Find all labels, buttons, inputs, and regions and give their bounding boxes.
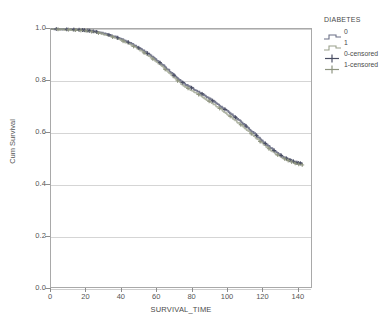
x-tick-mark — [298, 288, 299, 292]
y-tick-label: 0.2 — [10, 231, 46, 240]
x-tick-label: 140 — [283, 292, 313, 301]
plus-marker-icon — [324, 60, 341, 69]
survival-curve-1 — [51, 29, 302, 165]
x-tick-label: 80 — [177, 292, 207, 301]
legend-item-label: 1-censored — [344, 61, 378, 68]
legend-item-label: 0 — [344, 28, 348, 35]
x-tick-mark — [192, 288, 193, 292]
legend-item-0: 0 — [324, 26, 390, 36]
plus-marker-icon — [324, 49, 341, 58]
legend-title: DIABETES — [324, 16, 390, 23]
x-axis-title: SURVIVAL_TIME — [50, 305, 312, 314]
x-tick-mark — [227, 288, 228, 292]
legend: DIABETES 010-censored1-censored — [322, 14, 390, 70]
y-tick-label: 0.0 — [10, 283, 46, 292]
legend-item-0-censored: 0-censored — [324, 48, 390, 58]
y-tick-label: 0.8 — [10, 75, 46, 84]
survival-curves — [51, 29, 311, 287]
legend-item-1: 1 — [324, 37, 390, 47]
x-tick-mark — [50, 288, 51, 292]
x-tick-label: 60 — [141, 292, 171, 301]
legend-item-label: 1 — [344, 39, 348, 46]
x-tick-label: 100 — [212, 292, 242, 301]
x-tick-label: 120 — [247, 292, 277, 301]
x-tick-mark — [262, 288, 263, 292]
x-tick-label: 20 — [70, 292, 100, 301]
x-tick-mark — [156, 288, 157, 292]
x-tick-label: 0 — [35, 292, 65, 301]
x-tick-mark — [121, 288, 122, 292]
step-line-icon — [324, 38, 341, 47]
step-line-icon — [324, 27, 341, 36]
gridline — [51, 289, 311, 290]
legend-item-1-censored: 1-censored — [324, 59, 390, 69]
plot-area — [50, 28, 312, 288]
legend-item-label: 0-censored — [344, 50, 378, 57]
legend-items: 010-censored1-censored — [324, 26, 390, 69]
survival-chart: Cum Survival 1.00.80.60.40.20.0 02040608… — [0, 0, 391, 333]
y-tick-label: 0.6 — [10, 127, 46, 136]
x-tick-mark — [85, 288, 86, 292]
x-tick-label: 40 — [106, 292, 136, 301]
y-tick-label: 1.0 — [10, 23, 46, 32]
y-tick-label: 0.4 — [10, 179, 46, 188]
